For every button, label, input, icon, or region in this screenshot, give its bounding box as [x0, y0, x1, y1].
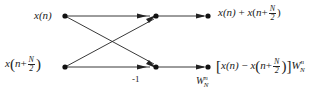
- node-output-top: [205, 13, 210, 18]
- node-mid-top: [153, 13, 158, 18]
- input-label-top: x(n): [34, 10, 52, 21]
- edge-cross-down: [65, 16, 154, 64]
- node-output-bottom: [205, 64, 210, 69]
- twiddle-label: WnN: [196, 74, 209, 89]
- node-mid-bottom: [153, 64, 158, 69]
- gain-label: -1: [132, 74, 140, 84]
- input-label-bottom: x(n+N2): [5, 56, 41, 73]
- output-label-bottom: [x(n) − x(n+N2)]WnN: [216, 58, 305, 75]
- output-label-top: x(n) + x(n+N2): [218, 5, 281, 22]
- edge-cross-up: [65, 19, 154, 67]
- node-input-top: [62, 13, 67, 18]
- node-input-bottom: [62, 64, 67, 69]
